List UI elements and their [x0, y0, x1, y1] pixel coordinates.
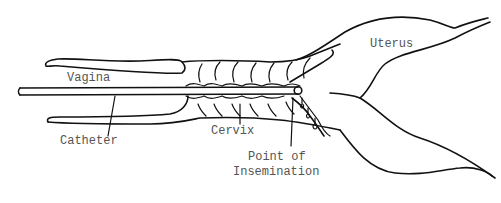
cervix-outer-curve-2 [300, 96, 330, 136]
label-catheter: Catheter [60, 134, 118, 148]
cervix-outer-curve [292, 98, 324, 136]
uterus-upper-inner [360, 22, 490, 98]
label-vagina: Vagina [67, 71, 110, 85]
label-cervix: Cervix [211, 124, 254, 138]
vagina-lower-wall [48, 96, 189, 122]
cervix-folds-lower [198, 102, 294, 116]
cervix-inner-bumps-lower [186, 96, 284, 98]
catheter-bottom [20, 94, 298, 95]
cervix-inner-bumps [186, 84, 300, 86]
vagina-lower-outer [48, 118, 340, 130]
catheter-top [20, 87, 298, 88]
catheter-left-end [19, 88, 21, 95]
label-insemination: Insemination [233, 165, 319, 179]
label-point-of: Point of [248, 150, 306, 164]
catheter-tip [294, 87, 302, 95]
cervix-upper-outer [182, 44, 340, 62]
label-uterus: Uterus [370, 37, 413, 51]
uterus-horn-divider [330, 93, 495, 178]
